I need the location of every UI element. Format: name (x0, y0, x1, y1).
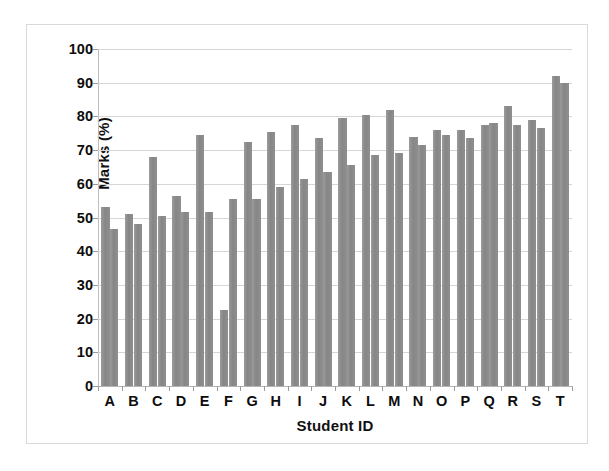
bar (220, 310, 228, 386)
bar-group (409, 49, 426, 386)
x-axis-tick-label: M (382, 393, 406, 409)
gridline (98, 116, 572, 117)
bar-group (504, 49, 521, 386)
bar (347, 165, 355, 386)
gridline (98, 319, 572, 320)
y-axis-tick-label: 0 (53, 378, 93, 394)
bar (481, 125, 489, 386)
x-axis-tick-mark (264, 386, 265, 391)
bar (101, 207, 109, 386)
bar (134, 224, 142, 386)
x-axis-tick-label: F (216, 393, 240, 409)
bar-group (433, 49, 450, 386)
bar (172, 196, 180, 386)
gridline (98, 251, 572, 252)
bar (110, 229, 118, 386)
x-axis-tick-label: T (548, 393, 572, 409)
x-axis-tick-mark (335, 386, 336, 391)
bar-group (457, 49, 474, 386)
x-axis-tick-mark (169, 386, 170, 391)
x-axis-tick-mark (501, 386, 502, 391)
bar (323, 172, 331, 386)
x-axis-tick-label: B (122, 393, 146, 409)
bar (276, 187, 284, 386)
bar (291, 125, 299, 386)
y-axis-tick-label: 60 (53, 176, 93, 192)
x-axis-tick-label: I (287, 393, 311, 409)
bar-group (196, 49, 213, 386)
x-axis-tick-label: R (501, 393, 525, 409)
x-axis-tick-marks (98, 386, 572, 391)
x-axis-tick-label: O (430, 393, 454, 409)
bar (489, 123, 497, 386)
x-axis-tick-mark (382, 386, 383, 391)
x-axis-tick-label: K (335, 393, 359, 409)
bar-chart-figure: Marks (%) 0102030405060708090100 ABCDEFG… (26, 24, 588, 444)
y-axis-tick-label: 50 (53, 210, 93, 226)
bar-group (315, 49, 332, 386)
bar-group (528, 49, 545, 386)
x-axis-tick-label: L (359, 393, 383, 409)
x-axis-title: Student ID (98, 417, 572, 434)
bar (386, 110, 394, 386)
gridline (98, 49, 572, 50)
gridline (98, 285, 572, 286)
x-axis-tick-label: P (453, 393, 477, 409)
bar (457, 130, 465, 386)
gridline (98, 83, 572, 84)
bar (528, 120, 536, 386)
gridline (98, 352, 572, 353)
bar (252, 199, 260, 386)
x-axis-tick-mark (430, 386, 431, 391)
bar (560, 83, 568, 386)
bar-group (291, 49, 308, 386)
bar-group (267, 49, 284, 386)
x-axis-tick-mark (572, 386, 573, 391)
bar (229, 199, 237, 386)
x-axis-tick-label: Q (477, 393, 501, 409)
bar (537, 128, 545, 386)
bar (125, 214, 133, 386)
x-axis-tick-label: C (145, 393, 169, 409)
x-axis-tick-mark (548, 386, 549, 391)
bar-group (552, 49, 569, 386)
bar (418, 145, 426, 386)
x-axis-tick-mark (311, 386, 312, 391)
y-axis-tick-label: 10 (53, 344, 93, 360)
bar (552, 76, 560, 386)
bar (196, 135, 204, 386)
y-axis-tick-label: 40 (53, 243, 93, 259)
plot-area (98, 49, 572, 386)
x-axis-tick-mark (454, 386, 455, 391)
gridline (98, 218, 572, 219)
bar (409, 137, 417, 386)
x-axis-tick-mark (98, 386, 99, 391)
x-axis-tick-mark (122, 386, 123, 391)
bar (315, 138, 323, 386)
bar (466, 138, 474, 386)
y-axis-tick-label: 90 (53, 75, 93, 91)
bar (158, 216, 166, 386)
bar (205, 212, 213, 386)
bar (244, 142, 252, 386)
x-axis-tick-label: G (240, 393, 264, 409)
x-axis-tick-label: E (193, 393, 217, 409)
bar-group (386, 49, 403, 386)
x-axis-tick-label: H (264, 393, 288, 409)
x-axis-tick-mark (240, 386, 241, 391)
x-axis-tick-mark (406, 386, 407, 391)
x-axis-tick-mark (288, 386, 289, 391)
bar (395, 153, 403, 386)
x-axis-tick-label: A (98, 393, 122, 409)
gridline (98, 184, 572, 185)
bar (442, 135, 450, 386)
x-axis-tick-mark (525, 386, 526, 391)
bar (504, 106, 512, 386)
y-axis-tick-label: 100 (53, 41, 93, 57)
bar (371, 155, 379, 386)
bar-group (481, 49, 498, 386)
x-axis-tick-mark (477, 386, 478, 391)
bar-group (172, 49, 189, 386)
bar (181, 212, 189, 386)
y-axis-tick-label: 30 (53, 277, 93, 293)
